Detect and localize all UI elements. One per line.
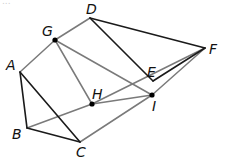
segment-ef: [153, 48, 205, 81]
label-c: C: [76, 144, 86, 158]
segment-gi: [55, 40, 152, 95]
label-f: F: [209, 41, 218, 57]
segment-gh: [55, 40, 92, 104]
point-h-marker: [89, 101, 94, 106]
segment-bh: [27, 104, 92, 128]
label-g: G: [42, 23, 53, 39]
segment-bc: [27, 128, 80, 142]
segment-de: [90, 18, 153, 81]
point-labels: ABCDEFGHI: [5, 1, 218, 158]
label-a: A: [5, 57, 16, 73]
segment-gd: [55, 18, 90, 40]
cut-off-text: ...: [2, 0, 11, 6]
label-e: E: [147, 64, 156, 80]
segment-ag: [20, 40, 55, 72]
point-i-marker: [149, 92, 154, 97]
label-i: I: [152, 98, 156, 114]
geometry-diagram: ... ABCDEFGHI: [0, 0, 234, 158]
label-h: H: [92, 86, 103, 102]
segment-df: [90, 18, 205, 48]
segment-ab: [20, 72, 27, 128]
label-d: D: [86, 1, 97, 17]
point-g-marker: [52, 37, 57, 42]
segment-ac: [20, 72, 80, 142]
label-b: B: [12, 126, 22, 142]
segment-if: [152, 48, 205, 95]
